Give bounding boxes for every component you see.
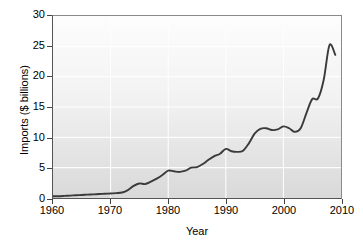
chart-figure: Imports ($ billions) 051015202530 196019… bbox=[0, 0, 363, 248]
x-axis-tick-label: 2000 bbox=[262, 205, 306, 216]
plot-svg bbox=[53, 16, 341, 198]
x-axis-tick-label: 2010 bbox=[320, 205, 363, 216]
y-axis-tick-label: 5 bbox=[5, 162, 45, 173]
x-axis-tick-label: 1980 bbox=[146, 205, 190, 216]
y-axis-tick-label: 30 bbox=[5, 9, 45, 20]
y-axis-tick-label: 10 bbox=[5, 132, 45, 143]
x-axis-tick-label: 1970 bbox=[88, 205, 132, 216]
x-axis-tick-label: 1960 bbox=[30, 205, 74, 216]
y-axis-tick-label: 20 bbox=[5, 70, 45, 81]
y-axis-tick-label: 25 bbox=[5, 40, 45, 51]
y-axis-tick-label: 15 bbox=[5, 101, 45, 112]
data-series-line bbox=[53, 44, 335, 196]
y-axis-tick bbox=[47, 138, 52, 139]
y-axis-tick bbox=[47, 15, 52, 16]
y-axis-tick bbox=[47, 107, 52, 108]
y-axis-tick bbox=[47, 76, 52, 77]
plot-area bbox=[52, 15, 342, 199]
gridlines bbox=[53, 16, 341, 198]
y-axis-tick bbox=[47, 46, 52, 47]
y-axis-tick-label: 0 bbox=[5, 193, 45, 204]
y-axis-tick bbox=[47, 168, 52, 169]
x-axis-title: Year bbox=[52, 225, 342, 237]
x-axis-tick-label: 1990 bbox=[204, 205, 248, 216]
